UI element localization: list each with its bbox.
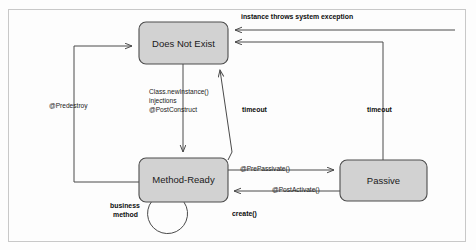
edge-label-business-method-line2: method — [113, 211, 138, 218]
state-method-ready[interactable]: Method-Ready — [139, 158, 228, 202]
edge-label-timeout-method-ready: timeout — [242, 106, 268, 113]
state-diagram: Does Not Exist Method-Ready Passive inst… — [0, 0, 476, 250]
edge-timeout-method-ready — [220, 70, 232, 160]
diagram-canvas: Does Not Exist Method-Ready Passive inst… — [0, 0, 476, 250]
edge-label-create-instance-line3: @PostConstruct — [149, 106, 197, 113]
edge-label-postactivate: @PostActivate() — [272, 186, 320, 194]
edge-label-create-instance-line2: injections — [149, 97, 177, 105]
edge-label-prepassivate: @PrePassivate() — [240, 165, 290, 173]
state-does-not-exist-label: Does Not Exist — [152, 38, 215, 49]
edge-predestroy — [74, 46, 139, 182]
edge-label-system-exception: instance throws system exception — [241, 13, 353, 21]
state-does-not-exist[interactable]: Does Not Exist — [139, 22, 228, 64]
state-passive-label: Passive — [367, 175, 400, 186]
edge-label-create-call: create() — [232, 210, 257, 218]
edge-label-business-method-line1: business — [110, 202, 140, 209]
edge-label-predestroy: @Predestroy — [49, 102, 88, 110]
diagram-frame — [9, 10, 466, 242]
edge-label-create-instance-line1: Class.newInstance() — [149, 88, 209, 96]
state-method-ready-label: Method-Ready — [152, 174, 215, 185]
edge-label-timeout-passive: timeout — [367, 106, 393, 113]
state-passive[interactable]: Passive — [340, 160, 427, 201]
edge-timeout-passive — [235, 42, 383, 160]
